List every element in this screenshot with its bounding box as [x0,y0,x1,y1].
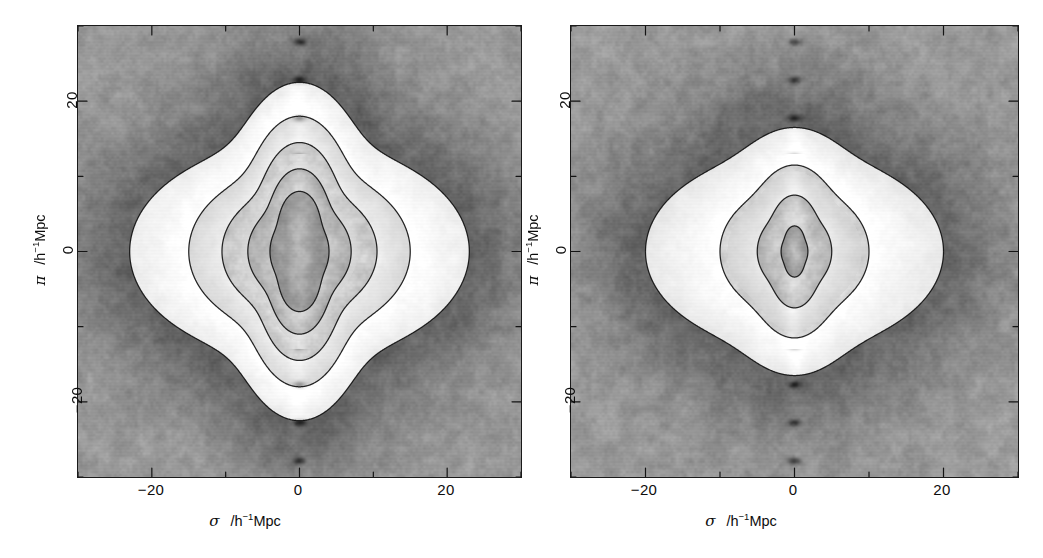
right-panel-heatmap [571,26,1018,477]
right-yaxis-units-post: Mpc [525,214,541,241]
right-xtick-0: −20 [631,481,657,498]
right-xaxis-title: σ/h−1Mpc [705,512,777,530]
left-xaxis-title: σ/h−1Mpc [209,512,281,530]
left-xaxis-units-post: Mpc [253,513,280,529]
left-yaxis-units-pre: /h [32,253,48,265]
right-ytick-2: 20 [556,91,573,108]
left-panel-plot-frame [77,25,522,478]
left-panel: −20 0 20 20 0 −20 σ/h−1Mpc π/h−1Mpc [0,0,521,558]
right-xaxis-units-pre: /h [726,513,738,529]
right-yaxis-title: π/h−1Mpc [524,214,542,285]
left-xtick-2: 20 [437,481,454,498]
right-ytick-0: −20 [561,387,578,413]
left-xaxis-symbol: σ [209,512,230,530]
left-panel-heatmap [78,26,521,477]
left-xaxis-units-sup: −1 [243,511,254,522]
right-panel-plot-frame [570,25,1019,478]
right-panel: −20 0 20 20 0 −20 σ/h−1Mpc π/h−1Mpc [521,0,1043,558]
right-yaxis-units-pre: /h [525,253,541,265]
right-xaxis-units-sup: −1 [739,511,750,522]
left-yaxis-title: π/h−1Mpc [31,214,49,285]
left-ytick-1: 0 [59,246,76,255]
left-yaxis-symbol: π [31,265,49,286]
left-xtick-0: −20 [138,481,164,498]
left-ytick-0: −20 [68,387,85,413]
left-ytick-2: 20 [63,91,80,108]
left-xtick-1: 0 [294,481,303,498]
right-xaxis-symbol: σ [705,512,726,530]
right-xtick-2: 20 [933,481,950,498]
right-ytick-1: 0 [552,246,569,255]
left-yaxis-units-sup: −1 [30,242,41,253]
left-yaxis-units-post: Mpc [32,214,48,241]
right-xtick-1: 0 [789,481,798,498]
right-yaxis-units-sup: −1 [523,242,534,253]
figure-root: −20 0 20 20 0 −20 σ/h−1Mpc π/h−1Mpc −20 … [0,0,1043,558]
right-xaxis-units-post: Mpc [749,513,776,529]
right-yaxis-symbol: π [524,265,542,286]
left-xaxis-units-pre: /h [230,513,242,529]
